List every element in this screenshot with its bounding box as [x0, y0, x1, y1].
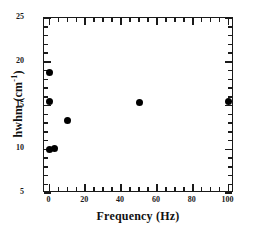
y-axis-minor-tick	[44, 44, 48, 46]
y-axis-title-exponent: -1	[10, 75, 19, 82]
y-axis-minor-tick	[44, 166, 48, 168]
x-axis-minor-tick	[67, 18, 69, 22]
y-axis-tick-label: 25	[2, 13, 24, 21]
x-axis-minor-tick	[138, 187, 140, 191]
plot-area	[43, 17, 233, 192]
y-axis-minor-tick	[228, 166, 232, 168]
x-axis-minor-tick	[58, 18, 60, 22]
y-axis-tick	[225, 149, 232, 151]
x-axis-minor-tick	[129, 187, 131, 191]
y-axis-tick	[44, 105, 51, 107]
x-axis-minor-tick	[183, 187, 185, 191]
y-axis-minor-tick	[228, 52, 232, 54]
x-axis-tick	[120, 18, 122, 25]
y-axis-minor-tick	[228, 122, 232, 124]
x-axis-tick	[49, 184, 51, 191]
x-axis-tick	[156, 184, 158, 191]
x-axis-tick	[120, 184, 122, 191]
x-axis-tick	[228, 18, 230, 25]
data-point	[64, 117, 71, 124]
x-axis-tick	[84, 184, 86, 191]
y-axis-tick-label: 20	[2, 57, 24, 65]
y-axis-minor-tick	[44, 140, 48, 142]
y-axis-minor-tick	[44, 26, 48, 28]
y-axis-minor-tick	[44, 184, 48, 186]
y-axis-tick-label: 10	[2, 144, 24, 152]
x-axis-minor-tick	[93, 18, 95, 22]
x-axis-minor-tick	[201, 18, 203, 22]
data-point	[136, 99, 143, 106]
x-axis-tick-label: 20	[69, 196, 99, 204]
x-axis-minor-tick	[76, 187, 78, 191]
scatter-chart-figure: Frequency (Hz) hwhm (cm-1) 5101520250204…	[0, 0, 260, 237]
x-axis-minor-tick	[93, 187, 95, 191]
x-axis-tick-label: 0	[33, 196, 63, 204]
y-axis-minor-tick	[44, 87, 48, 89]
y-axis-minor-tick	[44, 35, 48, 37]
y-axis-minor-tick	[44, 157, 48, 159]
y-axis-minor-tick	[44, 114, 48, 116]
y-axis-minor-tick	[228, 79, 232, 81]
y-axis-minor-tick	[228, 26, 232, 28]
x-axis-minor-tick	[165, 187, 167, 191]
x-axis-minor-tick	[67, 187, 69, 191]
x-axis-tick	[156, 18, 158, 25]
data-point	[51, 145, 58, 152]
x-axis-minor-tick	[210, 18, 212, 22]
y-axis-minor-tick	[228, 140, 232, 142]
y-axis-tick	[44, 61, 51, 63]
data-point	[46, 98, 53, 105]
y-axis-minor-tick	[44, 175, 48, 177]
x-axis-minor-tick	[138, 18, 140, 22]
x-axis-tick	[192, 18, 194, 25]
y-axis-title-main: hwhm (cm	[11, 82, 25, 138]
x-axis-minor-tick	[129, 18, 131, 22]
x-axis-minor-tick	[174, 187, 176, 191]
y-axis-minor-tick	[44, 122, 48, 124]
y-axis-tick	[225, 61, 232, 63]
y-axis-tick	[44, 192, 51, 194]
y-axis-minor-tick	[44, 131, 48, 133]
y-axis-minor-tick	[44, 52, 48, 54]
y-axis-minor-tick	[228, 44, 232, 46]
y-axis-tick-label: 15	[2, 101, 24, 109]
x-axis-tick	[84, 18, 86, 25]
x-axis-minor-tick	[76, 18, 78, 22]
data-point	[225, 98, 232, 105]
x-axis-tick-label: 60	[141, 196, 171, 204]
x-axis-tick	[192, 184, 194, 191]
x-axis-minor-tick	[102, 18, 104, 22]
x-axis-tick	[228, 184, 230, 191]
x-axis-minor-tick	[111, 18, 113, 22]
y-axis-minor-tick	[228, 157, 232, 159]
y-axis-minor-tick	[228, 114, 232, 116]
y-axis-minor-tick	[44, 79, 48, 81]
x-axis-minor-tick	[183, 18, 185, 22]
x-axis-minor-tick	[147, 18, 149, 22]
y-axis-minor-tick	[228, 175, 232, 177]
x-axis-minor-tick	[111, 187, 113, 191]
x-axis-minor-tick	[102, 187, 104, 191]
y-axis-tick	[225, 192, 232, 194]
y-axis-tick	[225, 105, 232, 107]
x-axis-title: Frequency (Hz)	[43, 209, 233, 224]
y-axis-tick-label: 5	[2, 188, 24, 196]
x-axis-minor-tick	[165, 18, 167, 22]
y-axis-minor-tick	[228, 87, 232, 89]
x-axis-minor-tick	[174, 18, 176, 22]
x-axis-tick-label: 80	[177, 196, 207, 204]
y-axis-minor-tick	[228, 35, 232, 37]
x-axis-minor-tick	[201, 187, 203, 191]
x-axis-minor-tick	[219, 18, 221, 22]
x-axis-tick	[49, 18, 51, 25]
data-point	[46, 69, 53, 76]
x-axis-tick-label: 40	[105, 196, 135, 204]
y-axis-minor-tick	[228, 131, 232, 133]
y-axis-minor-tick	[228, 70, 232, 72]
x-axis-tick-label: 100	[213, 196, 243, 204]
x-axis-minor-tick	[219, 187, 221, 191]
x-axis-minor-tick	[58, 187, 60, 191]
x-axis-minor-tick	[210, 187, 212, 191]
y-axis-title-close: )	[11, 70, 25, 74]
x-axis-minor-tick	[147, 187, 149, 191]
